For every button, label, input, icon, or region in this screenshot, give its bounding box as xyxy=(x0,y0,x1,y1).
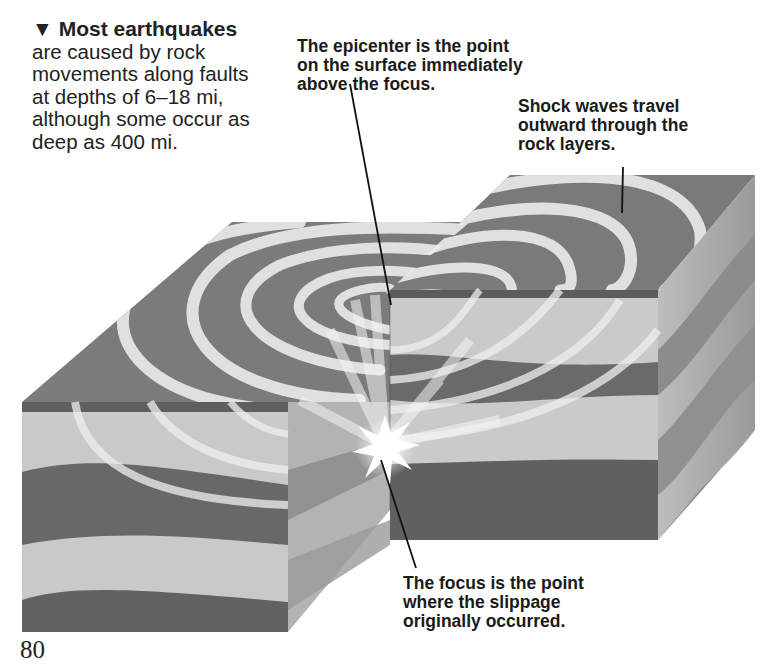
focus-caption-line: where the slippage xyxy=(403,593,663,612)
page-number: 80 xyxy=(20,636,45,664)
focus-caption: The focus is the point where the slippag… xyxy=(403,574,663,631)
main-caption-line: deep as 400 mi. xyxy=(32,131,302,154)
epicenter-caption-line: on the surface immediately xyxy=(297,56,597,75)
down-triangle-icon: ▼ xyxy=(32,17,53,40)
focus-caption-line: The focus is the point xyxy=(403,574,663,593)
main-caption-line: although some occur as xyxy=(32,108,302,131)
shock-waves-caption-line: outward through the xyxy=(518,116,778,135)
main-caption: ▼ Most earthquakes are caused by rock mo… xyxy=(32,18,302,153)
epicenter-caption: The epicenter is the point on the surfac… xyxy=(297,37,597,94)
main-caption-line: at depths of 6–18 mi, xyxy=(32,86,302,109)
shock-waves-caption: Shock waves travel outward through the r… xyxy=(518,97,778,154)
main-caption-heading: ▼ Most earthquakes xyxy=(32,18,302,41)
main-caption-line: movements along faults xyxy=(32,63,302,86)
shock-waves-caption-line: rock layers. xyxy=(518,135,778,154)
main-caption-line: are caused by rock xyxy=(32,41,302,64)
shock-waves-leader-line xyxy=(622,167,623,213)
focus-caption-line: originally occurred. xyxy=(403,612,663,631)
main-caption-heading-text: Most earthquakes xyxy=(59,17,238,40)
shock-waves-caption-line: Shock waves travel xyxy=(518,97,778,116)
epicenter-caption-line: above the focus. xyxy=(297,75,597,94)
epicenter-caption-line: The epicenter is the point xyxy=(297,37,597,56)
